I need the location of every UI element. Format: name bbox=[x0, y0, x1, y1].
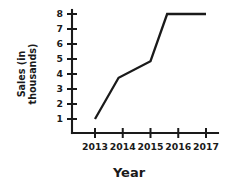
y-tick-label-6: 6 bbox=[57, 38, 63, 49]
x-tick-label-2016: 2016 bbox=[165, 141, 191, 152]
x-tick-label-2014: 2014 bbox=[110, 141, 136, 152]
y-tick-label-3: 3 bbox=[57, 83, 63, 94]
line-chart: 12345678 20132014201520162017 Year Sales… bbox=[0, 0, 227, 182]
x-axis-title: Year bbox=[112, 165, 146, 180]
y-axis-title-line-2: thousands) bbox=[27, 44, 38, 105]
x-axis-tick-labels: 20132014201520162017 bbox=[82, 141, 219, 152]
x-tick-label-2013: 2013 bbox=[82, 141, 108, 152]
x-tick-label-2015: 2015 bbox=[138, 141, 164, 152]
y-tick-label-1: 1 bbox=[57, 113, 63, 124]
y-axis-title-line-1: Sales (in bbox=[16, 50, 27, 97]
y-tick-label-2: 2 bbox=[57, 98, 63, 109]
chart-plot-area: 12345678 20132014201520162017 Year Sales… bbox=[0, 0, 227, 182]
y-tick-label-8: 8 bbox=[57, 8, 63, 19]
data-series-sales bbox=[95, 14, 206, 119]
y-axis-title: Sales (in thousands) bbox=[16, 44, 38, 105]
y-tick-label-7: 7 bbox=[57, 23, 63, 34]
x-tick-label-2017: 2017 bbox=[193, 141, 219, 152]
series-line-Sales bbox=[95, 14, 206, 119]
y-tick-label-5: 5 bbox=[57, 53, 63, 64]
y-tick-label-4: 4 bbox=[57, 68, 64, 79]
y-axis-tick-labels: 12345678 bbox=[57, 8, 64, 124]
